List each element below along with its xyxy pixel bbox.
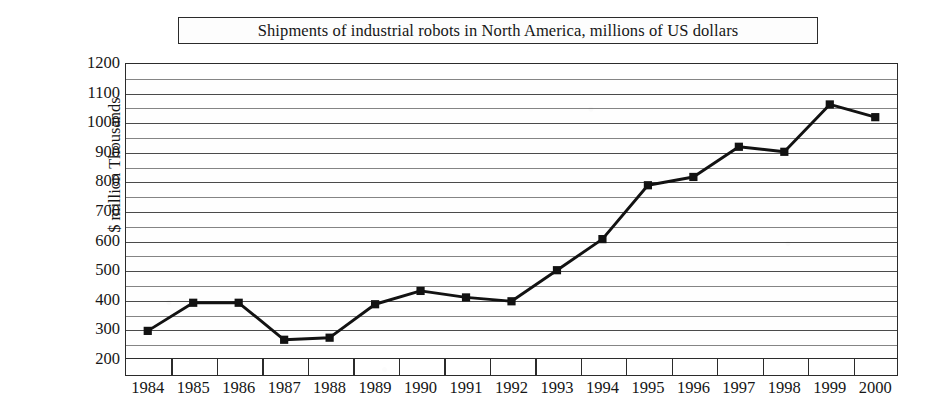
data-point-marker[interactable] xyxy=(507,297,515,305)
data-point-marker[interactable] xyxy=(598,235,606,243)
x-axis-band-row xyxy=(125,359,898,376)
y-axis-tick-label: 900 xyxy=(68,144,120,161)
x-axis-tick xyxy=(308,359,309,375)
data-point-marker[interactable] xyxy=(735,143,743,151)
data-point-marker[interactable] xyxy=(689,173,697,181)
x-axis-tick xyxy=(399,359,400,375)
x-axis-tick-label: 1999 xyxy=(813,379,846,397)
data-point-marker[interactable] xyxy=(462,293,470,301)
x-axis-tick xyxy=(717,359,718,375)
x-axis-tick xyxy=(444,359,445,375)
data-point-marker[interactable] xyxy=(371,300,379,308)
x-axis-tick xyxy=(672,359,673,375)
x-axis-tick-label: 1985 xyxy=(177,379,210,397)
y-axis-tick-label: 600 xyxy=(68,232,120,249)
data-point-marker[interactable] xyxy=(553,266,561,274)
x-axis-tick-labels: 1984198519861987198819891990199119921993… xyxy=(125,379,898,403)
x-axis-tick-label: 1989 xyxy=(359,379,392,397)
x-axis-tick-label: 1986 xyxy=(222,379,255,397)
x-axis-tick xyxy=(808,359,809,375)
y-axis-tick-label: 1200 xyxy=(68,55,120,72)
data-point-marker[interactable] xyxy=(144,327,152,335)
x-axis-tick-label: 1994 xyxy=(586,379,619,397)
x-axis-tick xyxy=(763,359,764,375)
x-axis-tick-label: 1987 xyxy=(268,379,301,397)
x-axis-tick-label: 2000 xyxy=(859,379,892,397)
y-axis-tick-label: 700 xyxy=(68,203,120,220)
y-axis-tick-label: 1100 xyxy=(68,84,120,101)
data-point-marker[interactable] xyxy=(644,181,652,189)
y-axis-tick-label: 300 xyxy=(68,321,120,338)
data-point-marker[interactable] xyxy=(326,334,334,342)
data-point-marker[interactable] xyxy=(235,299,243,307)
chart-title: Shipments of industrial robots in North … xyxy=(258,21,739,41)
x-axis-tick xyxy=(217,359,218,375)
x-axis-tick xyxy=(535,359,536,375)
x-axis-tick-label: 1984 xyxy=(131,379,164,397)
x-axis-tick-label: 1993 xyxy=(540,379,573,397)
x-axis-tick xyxy=(581,359,582,375)
chart-title-box: Shipments of industrial robots in North … xyxy=(178,17,818,44)
x-axis-tick-label: 1995 xyxy=(631,379,664,397)
x-axis-tick-label: 1990 xyxy=(404,379,437,397)
y-axis-tick-labels: 200300400500600700800900100011001200 xyxy=(68,63,120,359)
x-axis-tick-label: 1996 xyxy=(677,379,710,397)
x-axis-tick-label: 1991 xyxy=(450,379,483,397)
y-axis-tick-label: 200 xyxy=(68,351,120,368)
data-point-marker[interactable] xyxy=(189,299,197,307)
y-axis-tick-label: 400 xyxy=(68,292,120,309)
data-series-layer xyxy=(125,63,898,359)
x-axis-tick xyxy=(353,359,354,375)
x-axis-tick xyxy=(171,359,172,375)
data-point-marker[interactable] xyxy=(780,148,788,156)
y-axis-tick-label: 1000 xyxy=(68,114,120,131)
data-point-marker[interactable] xyxy=(416,287,424,295)
x-axis-tick-label: 1992 xyxy=(495,379,528,397)
data-point-marker[interactable] xyxy=(826,100,834,108)
x-axis-tick xyxy=(262,359,263,375)
x-axis-tick xyxy=(626,359,627,375)
x-axis-tick xyxy=(490,359,491,375)
x-axis-tick xyxy=(854,359,855,375)
data-point-marker[interactable] xyxy=(871,113,879,121)
y-axis-tick-label: 500 xyxy=(68,262,120,279)
x-axis-tick-label: 1997 xyxy=(722,379,755,397)
x-axis-tick-label: 1998 xyxy=(768,379,801,397)
y-axis-tick-label: 800 xyxy=(68,173,120,190)
data-point-marker[interactable] xyxy=(280,336,288,344)
x-axis-tick-label: 1988 xyxy=(313,379,346,397)
